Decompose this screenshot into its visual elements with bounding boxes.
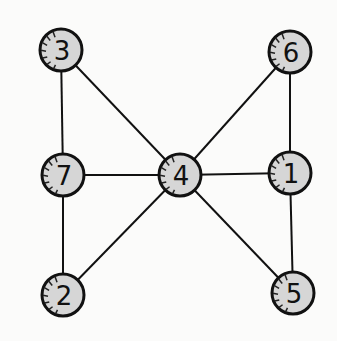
hatch-mark xyxy=(43,295,48,296)
graph-canvas: 3674125 xyxy=(0,0,337,341)
node-label: 6 xyxy=(283,38,300,68)
node-label: 1 xyxy=(283,159,300,189)
node-label: 3 xyxy=(54,36,71,66)
node-1: 1 xyxy=(269,152,311,194)
node-5: 5 xyxy=(272,272,314,314)
node-label: 7 xyxy=(56,161,73,191)
node-label: 2 xyxy=(56,281,73,311)
node-3: 3 xyxy=(40,29,82,71)
hatch-mark xyxy=(43,57,48,58)
edge-4-5 xyxy=(180,175,293,293)
hatch-mark xyxy=(270,173,275,174)
node-7: 7 xyxy=(42,154,84,196)
node-6: 6 xyxy=(269,31,311,73)
node-label: 5 xyxy=(286,279,303,309)
edge-3-4 xyxy=(61,50,180,175)
hatch-mark xyxy=(43,175,48,176)
node-2: 2 xyxy=(42,274,84,316)
graph-diagram: 3674125 xyxy=(0,0,337,341)
hatch-mark xyxy=(273,293,278,294)
hatch-mark xyxy=(41,50,46,51)
edge-2-4 xyxy=(63,175,180,295)
hatch-mark xyxy=(272,59,277,60)
hatch-mark xyxy=(160,175,165,176)
node-label: 4 xyxy=(173,161,190,191)
hatch-mark xyxy=(275,300,280,301)
hatch-mark xyxy=(272,180,277,181)
hatch-mark xyxy=(45,302,50,303)
hatch-mark xyxy=(162,182,167,183)
hatch-mark xyxy=(45,182,50,183)
node-4: 4 xyxy=(159,154,201,196)
hatch-mark xyxy=(270,52,275,53)
edge-4-6 xyxy=(180,52,290,175)
